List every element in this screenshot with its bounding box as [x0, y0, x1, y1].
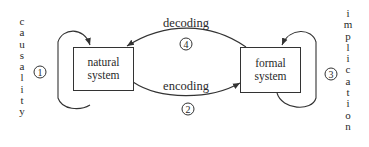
formal-system-label-1: formal	[255, 57, 287, 70]
natural-system-label-2: system	[88, 69, 120, 82]
formal-system-node: formal system	[240, 47, 301, 93]
encoding-label: encoding	[163, 79, 209, 94]
decoding-number: 4	[180, 38, 193, 51]
natural-system-node: natural system	[73, 47, 134, 91]
implication-label: i m p l i c a t i o n	[342, 8, 354, 132]
encoding-number: 2	[182, 103, 195, 116]
implication-number: 3	[325, 68, 338, 81]
natural-system-label-1: natural	[88, 56, 120, 69]
modeling-relation-diagram: natural system formal system decoding 4 …	[0, 0, 369, 147]
causality-number: 1	[34, 66, 47, 79]
causality-label: c a u s a l i t y	[16, 16, 28, 118]
formal-system-label-2: system	[255, 70, 287, 83]
decoding-label: decoding	[163, 16, 209, 31]
